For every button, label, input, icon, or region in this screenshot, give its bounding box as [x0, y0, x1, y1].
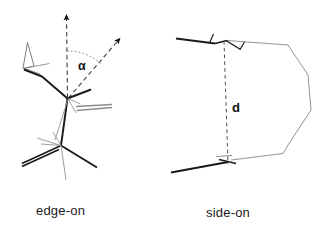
ring-polygon	[283, 45, 311, 154]
central-light-bond	[55, 99, 68, 140]
upper-double-bond	[76, 105, 112, 111]
surface-normal-arrow	[67, 17, 68, 98]
molecular-orientation-diagram: α	[0, 0, 325, 235]
edge-on-panel: α	[22, 17, 119, 180]
distance-measure-line	[224, 41, 228, 164]
bottom-plane-bar	[171, 154, 283, 173]
figure-canvas: α	[0, 0, 325, 235]
side-on-panel: d	[171, 34, 311, 173]
upper-bond-chain	[24, 70, 68, 99]
central-vertical-bond	[61, 99, 68, 146]
axis-defining-bond	[68, 90, 92, 99]
caption-edge-on: edge-on	[36, 203, 85, 218]
lower-double-bond	[22, 146, 60, 167]
bottom-bar-ticks	[216, 156, 232, 157]
alpha-symbol: α	[78, 59, 86, 73]
distance-symbol: d	[232, 100, 240, 115]
caption-side-on: side-on	[206, 205, 250, 220]
molecular-axis-arrow	[69, 40, 119, 98]
lower-junction-bonds	[61, 146, 97, 168]
terminal-wedge-group	[23, 43, 50, 75]
